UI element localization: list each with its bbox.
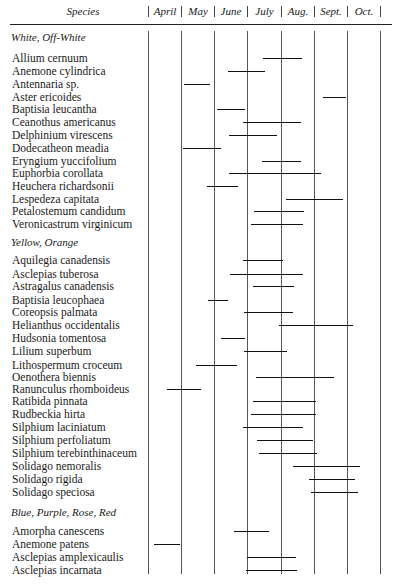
- flowering-period-bar: [254, 211, 304, 212]
- color-group-heading: White, Off-White: [11, 31, 86, 43]
- flowering-period-bar: [253, 286, 294, 287]
- month-grid-line: [380, 31, 381, 574]
- flowering-period-bar: [243, 260, 283, 261]
- month-header: July: [248, 5, 281, 17]
- flowering-period-bar: [229, 173, 321, 174]
- species-name: Astragalus canadensis: [12, 280, 114, 293]
- flowering-period-bar: [196, 365, 237, 366]
- species-name: Ceanothus americanus: [12, 116, 116, 129]
- month-grid-line: [247, 31, 248, 574]
- species-name: Delphinium virescens: [12, 129, 113, 142]
- species-name: Rudbeckia hirta: [12, 408, 85, 421]
- month-grid-line: [281, 31, 282, 574]
- flowering-period-bar: [262, 161, 301, 162]
- month-grid-line: [148, 31, 149, 574]
- species-name: Silphium laciniatum: [12, 421, 106, 434]
- month-header: Oct.: [348, 5, 380, 17]
- flowering-period-bar: [311, 492, 358, 493]
- species-name: Asclepias amplexicaulis: [12, 551, 123, 564]
- species-name: Hudsonia tomentosa: [12, 332, 106, 345]
- flowering-period-bar: [230, 274, 303, 275]
- species-name: Asclepias incarnata: [12, 564, 102, 577]
- flowering-period-bar: [251, 224, 303, 225]
- species-name: Solidago rigida: [12, 473, 83, 486]
- species-name: Anemone patens: [12, 538, 89, 551]
- flowering-period-bar: [256, 377, 334, 378]
- flowering-period-bar: [167, 389, 201, 390]
- flowering-period-bar: [257, 440, 313, 441]
- species-column-header: Species: [40, 5, 126, 17]
- flowering-period-chart: Species AprilMayJuneJulyAug.Sept.Oct. Wh…: [0, 0, 396, 585]
- month-header: April: [149, 5, 181, 17]
- flowering-period-bar: [279, 325, 353, 326]
- month-grid-line: [214, 31, 215, 574]
- species-name: Solidago speciosa: [12, 486, 95, 499]
- month-header: June: [215, 5, 247, 17]
- species-name: Petalostemum candidum: [12, 205, 125, 218]
- flowering-period-bar: [251, 414, 316, 415]
- month-header: Sept.: [315, 5, 347, 17]
- species-name: Ratibida pinnata: [12, 395, 88, 408]
- month-grid-line: [181, 31, 182, 574]
- flowering-period-bar: [244, 312, 293, 313]
- species-name: Heuchera richardsonii: [12, 180, 114, 193]
- species-name: Baptisia leucantha: [12, 103, 97, 116]
- species-name: Anemone cylindrica: [12, 65, 106, 78]
- flowering-period-bar: [286, 199, 343, 200]
- species-name: Silphium perfoliatum: [12, 434, 111, 447]
- flowering-period-bar: [228, 71, 265, 72]
- flowering-period-bar: [208, 300, 228, 301]
- flowering-period-bar: [244, 351, 287, 352]
- header-rule: [10, 24, 392, 25]
- month-header: Aug.: [282, 5, 314, 17]
- flowering-period-bar: [246, 570, 297, 571]
- species-name: Silphium terebinthinaceum: [12, 447, 137, 460]
- month-header: May: [182, 5, 214, 17]
- flowering-period-bar: [229, 135, 277, 136]
- header-tick: [380, 6, 381, 17]
- species-name: Amorpha canescens: [12, 525, 104, 538]
- flowering-period-bar: [243, 122, 301, 123]
- species-name: Aquilegia canadensis: [12, 254, 110, 267]
- flowering-period-bar: [243, 427, 303, 428]
- species-name: Veronicastrum virginicum: [12, 218, 132, 231]
- species-name: Solidago nemoralis: [12, 460, 101, 473]
- flowering-period-bar: [259, 453, 317, 454]
- flowering-period-bar: [154, 544, 180, 545]
- color-group-heading: Blue, Purple, Rose, Red: [11, 506, 116, 518]
- species-name: Lilium superbum: [12, 345, 92, 358]
- color-group-heading: Yellow, Orange: [11, 236, 78, 248]
- flowering-period-bar: [184, 84, 210, 85]
- flowering-period-bar: [263, 58, 302, 59]
- flowering-period-bar: [253, 401, 316, 402]
- flowering-period-bar: [207, 186, 238, 187]
- flowering-period-bar: [323, 97, 346, 98]
- flowering-period-bar: [309, 479, 355, 480]
- flowering-period-bar: [183, 148, 221, 149]
- flowering-period-bar: [234, 531, 269, 532]
- flowering-period-bar: [293, 466, 360, 467]
- species-name: Allium cernuum: [12, 52, 88, 65]
- species-name: Coreopsis palmata: [12, 306, 97, 319]
- species-name: Dodecatheon meadia: [12, 142, 109, 155]
- species-name: Euphorbia corollata: [12, 167, 103, 180]
- species-name: Helianthus occidentalis: [12, 319, 120, 332]
- flowering-period-bar: [217, 109, 245, 110]
- species-name: Antennaria sp.: [12, 78, 79, 91]
- flowering-period-bar: [247, 557, 296, 558]
- flowering-period-bar: [221, 338, 245, 339]
